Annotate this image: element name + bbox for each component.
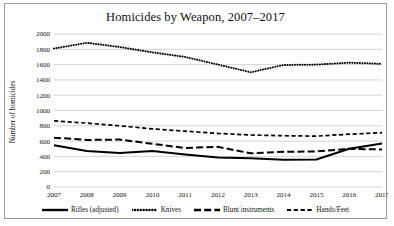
y-tick-label: 800 (40, 122, 51, 130)
x-tick-label: 2014 (277, 191, 292, 199)
series-lines (54, 43, 382, 160)
y-tick-label: 1200 (36, 92, 51, 100)
legend-swatch-icon (132, 206, 158, 214)
gridlines (54, 34, 382, 187)
y-tick-label: 600 (40, 138, 51, 146)
y-tick-label: 1600 (36, 61, 51, 69)
x-tick-label: 2008 (80, 191, 95, 199)
y-tick-label: 1400 (36, 76, 51, 84)
series-line (54, 43, 382, 72)
y-tick-label: 1000 (36, 107, 51, 115)
legend-label: Blunt instruments (223, 206, 274, 214)
y-axis-tick-labels: 0200400600800100012001400160018002000 (36, 30, 51, 191)
x-tick-label: 2015 (309, 191, 324, 199)
plot-area: 0200400600800100012001400160018002000 20… (5, 4, 388, 220)
legend-swatch-icon (194, 206, 220, 214)
y-tick-label: 400 (40, 153, 51, 161)
y-tick-label: 2000 (36, 30, 51, 38)
x-tick-label: 2016 (342, 191, 357, 199)
x-axis-tick-labels: 2007200820092010201120122013201420152016… (47, 191, 388, 199)
legend-item[interactable]: Knives (132, 206, 181, 214)
y-tick-label: 1800 (36, 46, 51, 54)
chart-legend: Rifles (adjusted)KnivesBlunt instruments… (5, 206, 386, 214)
legend-label: Rifles (adjusted) (71, 206, 119, 214)
chart-figure: Homicides by Weapon, 2007–2017 Number of… (0, 0, 394, 226)
legend-label: Knives (161, 206, 181, 214)
x-tick-label: 2012 (211, 191, 226, 199)
legend-swatch-icon (287, 206, 313, 214)
legend-item[interactable]: Blunt instruments (194, 206, 274, 214)
y-tick-label: 200 (40, 168, 51, 176)
x-tick-label: 2011 (178, 191, 192, 199)
x-tick-label: 2017 (375, 191, 388, 199)
x-tick-label: 2007 (47, 191, 62, 199)
series-line (54, 138, 382, 154)
legend-item[interactable]: Hands/Feet (287, 206, 349, 214)
legend-label: Hands/Feet (316, 206, 349, 214)
chart-frame: Homicides by Weapon, 2007–2017 Number of… (4, 3, 387, 219)
x-tick-label: 2010 (145, 191, 160, 199)
x-tick-label: 2009 (113, 191, 128, 199)
series-line (54, 121, 382, 136)
x-tick-label: 2013 (244, 191, 259, 199)
legend-swatch-icon (42, 206, 68, 214)
legend-item[interactable]: Rifles (adjusted) (42, 206, 119, 214)
